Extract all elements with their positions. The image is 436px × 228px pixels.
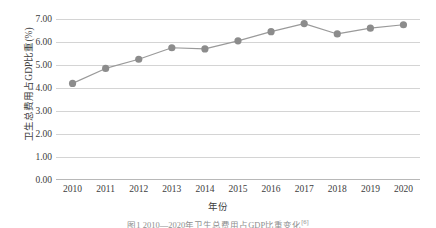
y-axis-tick: 0.00 (18, 175, 52, 185)
series-polyline (73, 24, 404, 84)
y-axis-tick: 1.00 (18, 152, 52, 162)
y-axis-tick: 4.00 (18, 83, 52, 93)
data-point-marker (267, 28, 274, 35)
figure-caption-text: 图1 2010—2020年卫生总费用占GDP比重变化 (127, 220, 301, 228)
y-axis-tick: 6.00 (18, 37, 52, 47)
data-point-marker (69, 80, 76, 87)
y-axis-tick-labels: 0.001.002.003.004.005.006.007.00 (18, 0, 52, 228)
data-point-marker (367, 25, 374, 32)
data-point-marker (334, 30, 341, 37)
x-axis-label: 年份 (0, 199, 436, 213)
figure-caption-reference: [6] (301, 218, 309, 225)
data-point-marker (400, 21, 407, 28)
y-axis-tick: 2.00 (18, 129, 52, 139)
data-point-marker (301, 20, 308, 27)
line-series (56, 19, 420, 180)
data-point-marker (201, 45, 208, 52)
data-point-marker (135, 56, 142, 63)
data-point-marker (102, 65, 109, 72)
y-axis-tick: 5.00 (18, 60, 52, 70)
x-axis-tick-labels: 2010201120122013201420152016201720182019… (56, 183, 420, 197)
data-point-marker (168, 44, 175, 51)
figure-caption: 图1 2010—2020年卫生总费用占GDP比重变化[6] (0, 216, 436, 228)
plot-area (56, 19, 420, 180)
figure-container: 卫生总费用占GDP比重(%) 0.001.002.003.004.005.006… (0, 0, 436, 228)
data-point-marker (234, 37, 241, 44)
x-axis-tick: 2020 (382, 183, 426, 195)
y-axis-tick: 7.00 (18, 14, 52, 24)
y-axis-tick: 3.00 (18, 106, 52, 116)
